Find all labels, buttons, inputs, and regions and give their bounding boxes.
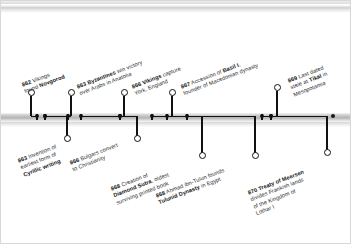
leader-elbow <box>271 116 327 117</box>
timeline-event-node[interactable] <box>324 149 331 156</box>
timeline-infographic: 862 Vikingsfound Novgorod863 Invention o… <box>0 0 351 244</box>
leader-stem-riser <box>270 114 271 120</box>
timeline-leader-line <box>0 0 351 244</box>
leader-stem <box>326 116 327 151</box>
